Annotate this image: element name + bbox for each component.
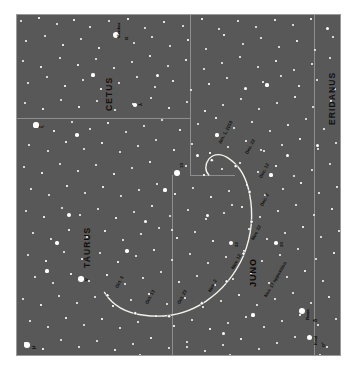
juno-date-node <box>200 302 203 305</box>
juno-date-node <box>167 315 170 318</box>
juno-date-ticks <box>106 158 253 317</box>
juno-date-node <box>242 252 245 255</box>
juno-date-node <box>225 280 228 283</box>
juno-track-path <box>104 155 251 316</box>
juno-date-node <box>248 190 251 193</box>
juno-date-node <box>134 312 137 315</box>
star-chart-page: CETUSTAURUSERIDANUSJUNONov. 17 oppositio… <box>0 0 350 369</box>
juno-date-node <box>210 158 213 161</box>
juno-date-node <box>106 294 109 297</box>
juno-path-canvas <box>17 15 340 355</box>
juno-date-node <box>250 220 253 223</box>
star-dot <box>340 274 341 276</box>
greek-star-label: ε <box>340 89 341 91</box>
sky-chart-frame: CETUSTAURUSERIDANUSJUNONov. 17 oppositio… <box>16 14 341 356</box>
juno-date-node <box>234 164 237 167</box>
